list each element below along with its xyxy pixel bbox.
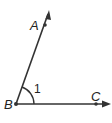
- angle-arc: [22, 87, 34, 104]
- label-c: C: [91, 89, 101, 104]
- label-b: B: [4, 97, 13, 112]
- point-b: [14, 102, 18, 106]
- point-a: [43, 23, 47, 27]
- arrowhead-a-icon: [46, 10, 52, 20]
- angle-diagram: A B C 1: [0, 0, 112, 123]
- arrowhead-c-icon: [102, 101, 111, 108]
- label-angle-1: 1: [34, 82, 41, 96]
- label-a: A: [29, 18, 39, 33]
